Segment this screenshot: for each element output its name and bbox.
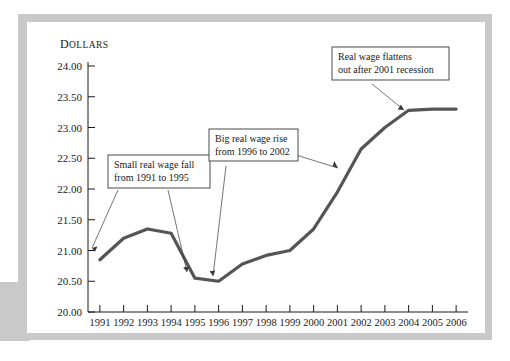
x-axis-ticks: 1991199219931994199519961997199819992000… — [89, 305, 466, 328]
y-tick-label: 23.00 — [57, 122, 82, 134]
x-tick-label: 1994 — [161, 317, 183, 328]
line-chart: DOLLARS 24.0023.5023.0022.5022.0021.5021… — [0, 0, 510, 361]
x-tick-label: 2002 — [351, 317, 372, 328]
x-tick-label: 1993 — [137, 317, 158, 328]
figure-frame: DOLLARS 24.0023.5023.0022.5022.0021.5021… — [0, 0, 510, 361]
y-tick-label: 23.50 — [57, 91, 82, 103]
x-tick-label: 1995 — [184, 317, 205, 328]
annotation-big-rise[interactable]: Big real wage rise from 1996 to 2002 — [209, 129, 298, 161]
x-tick-label: 2006 — [446, 317, 467, 328]
y-tick-label: 20.50 — [57, 275, 82, 287]
annotation-flattens[interactable]: Real wage flattens out after 2001 recess… — [332, 47, 449, 80]
annotation-big-rise-line1: Big real wage rise — [215, 133, 288, 144]
y-tick-label: 21.00 — [57, 245, 82, 257]
x-tick-label: 2005 — [422, 317, 443, 328]
chart-svg: DOLLARS 24.0023.5023.0022.5022.0021.5021… — [0, 0, 510, 361]
annotation-small-fall-line2: from 1991 to 1995 — [114, 172, 189, 183]
y-tick-label: 20.00 — [57, 306, 82, 318]
x-tick-label: 1999 — [279, 317, 300, 328]
annotation-small-fall-line1: Small real wage fall — [114, 159, 194, 170]
x-tick-label: 2001 — [327, 317, 348, 328]
y-tick-label: 22.50 — [57, 152, 82, 164]
x-tick-label: 2003 — [374, 317, 395, 328]
x-tick-label: 2004 — [398, 317, 420, 328]
annotation-big-rise-line2: from 1996 to 2002 — [215, 146, 290, 157]
x-tick-label: 2000 — [303, 317, 324, 328]
x-tick-label: 1997 — [232, 317, 253, 328]
annotation-flattens-line1: Real wage flattens — [338, 51, 412, 62]
y-tick-label: 24.00 — [57, 60, 82, 72]
y-tick-label: 22.00 — [57, 183, 82, 195]
x-tick-label: 1998 — [256, 317, 277, 328]
y-axis-label: DOLLARS — [60, 37, 108, 51]
x-tick-label: 1991 — [89, 317, 110, 328]
annotation-flattens-line2: out after 2001 recession — [338, 64, 434, 75]
annotation-small-fall[interactable]: Small real wage fall from 1991 to 1995 — [108, 155, 210, 188]
y-axis-ticks: 24.0023.5023.0022.5022.0021.5021.0020.50… — [57, 60, 95, 318]
y-tick-label: 21.50 — [57, 214, 82, 226]
x-tick-label: 1996 — [208, 317, 229, 328]
x-tick-label: 1992 — [113, 317, 134, 328]
